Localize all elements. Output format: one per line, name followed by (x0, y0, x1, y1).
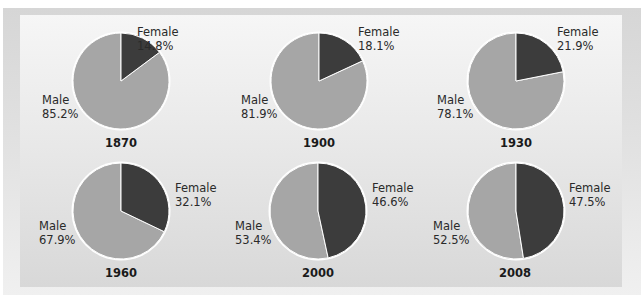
pie-chart-2008 (467, 162, 566, 261)
slice-percent: 32.1% (175, 195, 217, 209)
slice-name: Male (235, 219, 272, 233)
label-female-2008: Female47.5% (569, 181, 611, 209)
slice-name: Female (358, 25, 400, 39)
pie-chart-1960 (72, 162, 171, 261)
slice-percent: 46.6% (372, 195, 414, 209)
slice-percent: 18.1% (358, 39, 400, 53)
pie-chart-2000 (269, 162, 368, 261)
label-female-1900: Female18.1% (358, 25, 400, 53)
slice-name: Male (39, 219, 76, 233)
label-female-1870: Female14.8% (137, 25, 179, 53)
label-female-2000: Female46.6% (372, 181, 414, 209)
slice-name: Female (372, 181, 414, 195)
slice-percent: 52.5% (433, 233, 470, 247)
slice-female (516, 163, 564, 258)
label-male-1900: Male81.9% (241, 93, 278, 121)
slice-percent: 21.9% (557, 39, 599, 53)
slice-name: Male (42, 93, 79, 107)
slice-name: Female (557, 25, 599, 39)
slice-name: Female (569, 181, 611, 195)
slice-name: Female (175, 181, 217, 195)
slice-name: Male (433, 219, 470, 233)
year-label-1960: 1960 (105, 266, 137, 280)
label-male-1960: Male67.9% (39, 219, 76, 247)
slice-percent: 81.9% (241, 107, 278, 121)
label-female-1930: Female21.9% (557, 25, 599, 53)
slice-male (468, 163, 524, 259)
slice-female (318, 163, 366, 258)
label-female-1960: Female32.1% (175, 181, 217, 209)
year-label-1900: 1900 (303, 136, 335, 150)
label-male-1930: Male78.1% (437, 93, 474, 121)
slice-percent: 47.5% (569, 195, 611, 209)
slice-name: Male (241, 93, 278, 107)
slice-name: Female (137, 25, 179, 39)
pie-chart-1900 (270, 32, 369, 131)
slice-name: Male (437, 93, 474, 107)
label-male-1870: Male85.2% (42, 93, 79, 121)
slice-percent: 14.8% (137, 39, 179, 53)
pie-chart-1930 (467, 32, 566, 131)
year-label-2000: 2000 (302, 266, 334, 280)
slice-percent: 78.1% (437, 107, 474, 121)
slice-percent: 53.4% (235, 233, 272, 247)
label-male-2008: Male52.5% (433, 219, 470, 247)
label-male-2000: Male53.4% (235, 219, 272, 247)
slice-percent: 67.9% (39, 233, 76, 247)
year-label-1930: 1930 (500, 136, 532, 150)
year-label-2008: 2008 (499, 266, 531, 280)
year-label-1870: 1870 (105, 136, 137, 150)
slice-percent: 85.2% (42, 107, 79, 121)
